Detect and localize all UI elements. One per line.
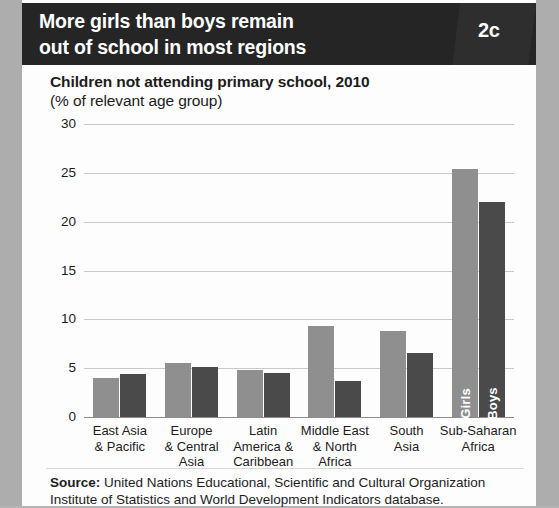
x-axis-label-line: Latin xyxy=(223,423,303,439)
gridline-5 xyxy=(84,368,514,369)
figure-sheet: More girls than boys remain out of schoo… xyxy=(22,0,536,506)
bar-boys-4 xyxy=(407,353,433,417)
gridline-25 xyxy=(84,173,514,174)
gridline-15 xyxy=(84,271,514,272)
y-axis-tick-0: 0 xyxy=(32,409,76,424)
x-axis-label-line: East Asia xyxy=(80,423,160,439)
x-axis-label-4: SouthAsia xyxy=(367,423,447,454)
source-text: United Nations Educational, Scientific a… xyxy=(50,475,485,507)
bar-boys-1 xyxy=(192,367,218,417)
bar-girls-1 xyxy=(165,363,191,417)
page-gutter-left xyxy=(0,0,22,506)
bar-girls-5: Girls xyxy=(452,169,478,417)
y-axis-tick-30: 30 xyxy=(32,116,76,131)
gridline-10 xyxy=(84,319,514,320)
x-axis-label-line: Europe xyxy=(152,423,232,439)
bar-boys-0 xyxy=(120,374,146,417)
bar-boys-5: Boys xyxy=(479,202,505,417)
bar-girls-3 xyxy=(308,326,334,417)
x-axis-label-line: Africa xyxy=(438,439,518,455)
x-axis-label-3: Middle East& NorthAfrica xyxy=(295,423,375,470)
y-axis-tick-20: 20 xyxy=(32,214,76,229)
x-axis-label-1: Europe& CentralAsia xyxy=(152,423,232,470)
x-axis-label-line: America & xyxy=(223,439,303,455)
page-gutter-right xyxy=(536,0,559,506)
source-label: Source: xyxy=(50,475,100,490)
source-note: Source: United Nations Educational, Scie… xyxy=(50,474,528,508)
y-axis-tick-5: 5 xyxy=(32,360,76,375)
x-axis-label-line: South xyxy=(367,423,447,439)
bar-girls-0 xyxy=(93,378,119,417)
x-axis-label-line: & Pacific xyxy=(80,439,160,455)
x-axis-label-line: Asia xyxy=(367,439,447,455)
y-axis-tick-25: 25 xyxy=(32,165,76,180)
y-axis-tick-10: 10 xyxy=(32,311,76,326)
inbar-legend-boys: Boys xyxy=(484,387,499,420)
bar-chart-plot: 051015202530East Asia& PacificEurope& Ce… xyxy=(22,0,536,506)
x-axis-label-2: LatinAmerica &Caribbean xyxy=(223,423,303,470)
bar-girls-2 xyxy=(237,370,263,417)
bar-girls-4 xyxy=(380,331,406,417)
x-axis-label-5: Sub-SaharanAfrica xyxy=(438,423,518,454)
inbar-legend-girls: Girls xyxy=(457,388,472,419)
source-divider xyxy=(46,468,524,469)
y-axis-tick-15: 15 xyxy=(32,263,76,278)
x-axis-label-line: & North xyxy=(295,439,375,455)
gridline-20 xyxy=(84,222,514,223)
gridline-0 xyxy=(84,417,514,418)
bar-boys-2 xyxy=(264,373,290,417)
x-axis-label-line: Sub-Saharan xyxy=(438,423,518,439)
x-axis-label-line: Middle East xyxy=(295,423,375,439)
x-axis-label-0: East Asia& Pacific xyxy=(80,423,160,454)
x-axis-label-line: & Central xyxy=(152,439,232,455)
bar-boys-3 xyxy=(335,381,361,417)
gridline-30 xyxy=(84,124,514,125)
